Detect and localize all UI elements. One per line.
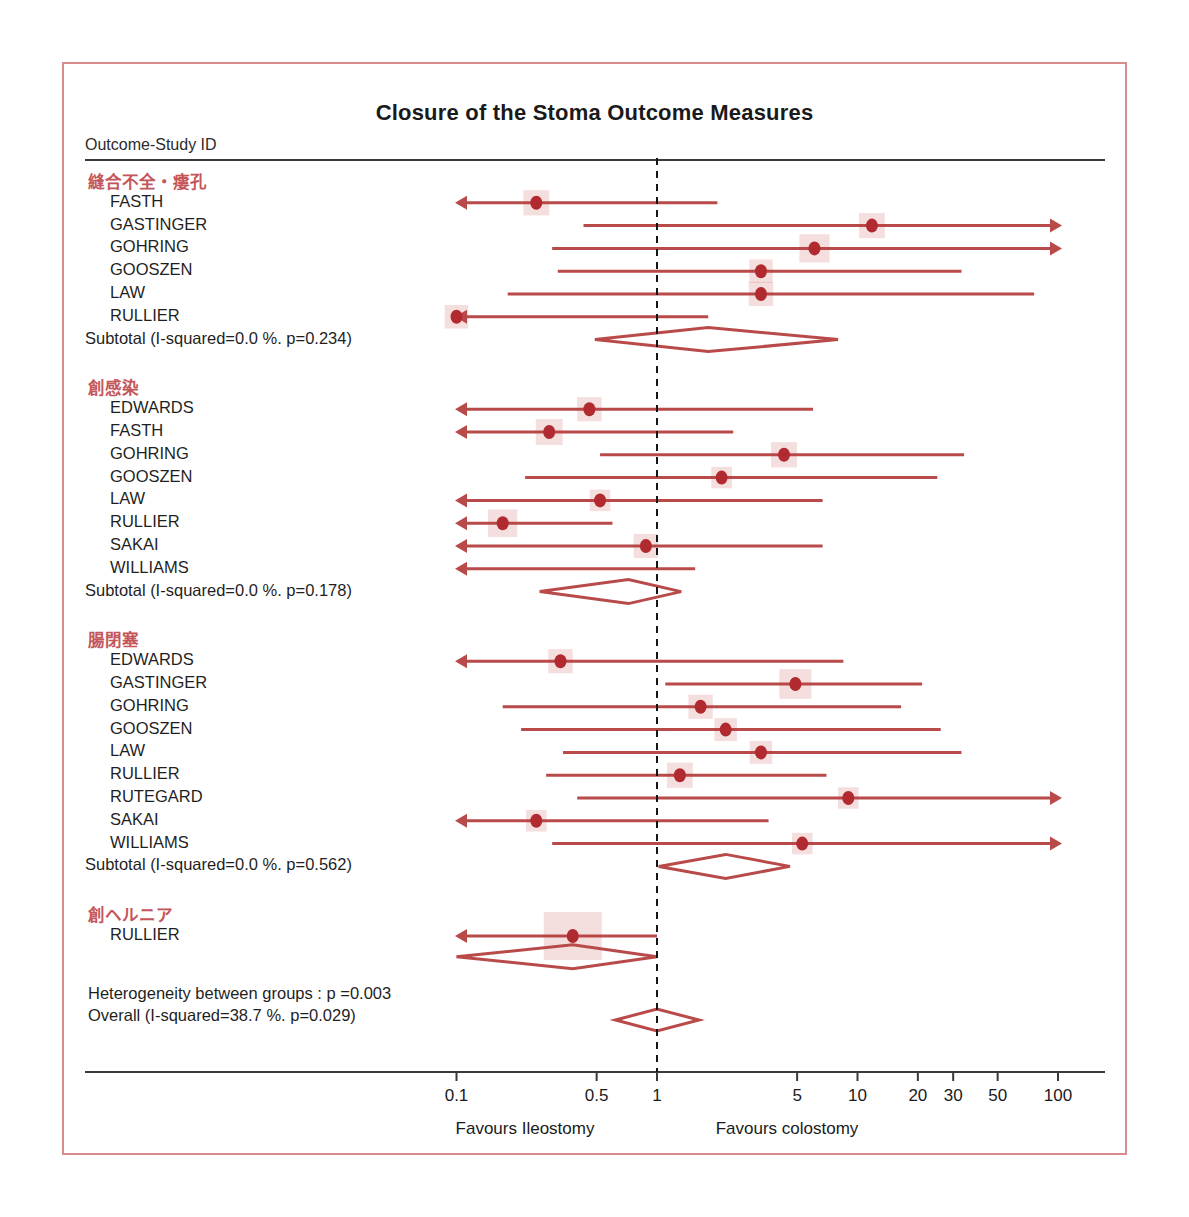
point-estimate-marker — [530, 814, 542, 828]
study-label: WILLIAMS — [110, 558, 189, 577]
point-estimate-marker — [778, 448, 790, 462]
point-estimate-marker — [755, 264, 767, 278]
study-label: GOHRING — [110, 237, 189, 256]
subtotal-group-3 — [659, 854, 790, 878]
point-estimate-marker — [755, 745, 767, 759]
study-row — [665, 669, 922, 699]
favours-left-label: Favours Ileostomy — [456, 1119, 595, 1139]
axis-tick-label: 10 — [848, 1086, 867, 1106]
study-row — [552, 833, 1062, 854]
study-row — [455, 509, 613, 537]
ci-arrow-left-icon — [455, 196, 467, 210]
axis-tick-label: 100 — [1044, 1086, 1072, 1106]
study-row — [455, 419, 733, 445]
study-row — [521, 718, 941, 741]
subtotal-group-1 — [595, 328, 838, 352]
point-estimate-marker — [808, 241, 820, 255]
point-estimate-marker — [640, 539, 652, 553]
study-label: RULLIER — [110, 764, 180, 783]
ci-arrow-right-icon — [1050, 219, 1062, 233]
study-label: FASTH — [110, 192, 163, 211]
axis-tick-label: 1 — [652, 1086, 661, 1106]
forest-plot-page: Closure of the Stoma Outcome Measures Ou… — [0, 0, 1189, 1217]
study-label: GOHRING — [110, 696, 189, 715]
study-row — [455, 397, 813, 421]
group-heading-3: 腸閉塞 — [88, 627, 139, 651]
ci-arrow-left-icon — [455, 562, 467, 576]
study-row — [455, 490, 823, 511]
axis-tick-label: 0.5 — [585, 1086, 609, 1106]
ci-arrow-left-icon — [455, 402, 467, 416]
point-estimate-marker — [842, 791, 854, 805]
study-row — [525, 467, 937, 488]
study-label: RUTEGARD — [110, 787, 203, 806]
ci-arrow-right-icon — [1050, 791, 1062, 805]
study-row — [455, 810, 769, 831]
ci-arrow-left-icon — [455, 929, 467, 943]
summary-diamond — [659, 854, 790, 878]
study-row — [563, 741, 961, 764]
study-label: RULLIER — [110, 306, 180, 325]
point-estimate-marker — [866, 219, 878, 233]
ci-arrow-left-icon — [455, 814, 467, 828]
study-row — [558, 259, 962, 283]
study-label: RULLIER — [110, 925, 180, 944]
study-label: RULLIER — [110, 512, 180, 531]
study-label: LAW — [110, 283, 145, 302]
ci-arrow-left-icon — [455, 516, 467, 530]
study-label: GOOSZEN — [110, 467, 193, 486]
point-estimate-marker — [543, 425, 555, 439]
point-estimate-marker — [530, 196, 542, 210]
point-estimate-marker — [755, 287, 767, 301]
group-heading-4: 創ヘルニア — [88, 902, 173, 926]
point-estimate-marker — [674, 768, 686, 782]
study-label: SAKAI — [110, 535, 159, 554]
point-estimate-marker — [497, 516, 509, 530]
point-estimate-marker — [716, 471, 728, 485]
study-label: LAW — [110, 741, 145, 760]
point-estimate-marker — [554, 654, 566, 668]
point-estimate-marker — [796, 837, 808, 851]
overall-label: Overall (I-squared=38.7 %. p=0.029) — [88, 1006, 356, 1025]
group-heading-2: 創感染 — [88, 375, 139, 399]
study-row — [577, 787, 1062, 808]
study-label: EDWARDS — [110, 650, 194, 669]
summary-diamond — [540, 580, 681, 604]
point-estimate-marker — [594, 493, 606, 507]
study-row — [455, 562, 695, 576]
point-estimate-marker — [720, 723, 732, 737]
ci-arrow-right-icon — [1050, 241, 1062, 255]
ci-arrow-left-icon — [455, 425, 467, 439]
study-row — [508, 282, 1034, 306]
axis-tick-label: 20 — [908, 1086, 927, 1106]
study-label: SAKAI — [110, 810, 159, 829]
study-row — [552, 234, 1062, 262]
study-row — [503, 695, 901, 719]
ci-arrow-right-icon — [1050, 837, 1062, 851]
point-estimate-marker — [567, 929, 579, 943]
favours-right-label: Favours colostomy — [716, 1119, 859, 1139]
subtotal-group-2 — [540, 580, 681, 604]
axis-tick-label: 5 — [792, 1086, 801, 1106]
study-label: GOOSZEN — [110, 260, 193, 279]
axis-tick-label: 50 — [988, 1086, 1007, 1106]
point-estimate-marker — [583, 402, 595, 416]
subtotal-label-3: Subtotal (I-squared=0.0 %. p=0.562) — [85, 855, 352, 874]
heterogeneity-note: Heterogeneity between groups : p =0.003 — [88, 984, 391, 1003]
axis-tick-label: 0.1 — [445, 1086, 469, 1106]
point-estimate-marker — [789, 677, 801, 691]
point-estimate-marker — [695, 700, 707, 714]
point-estimate-marker — [451, 310, 463, 324]
study-label: WILLIAMS — [110, 833, 189, 852]
group-heading-1: 縫合不全・瘻孔 — [88, 169, 207, 193]
study-row — [445, 305, 708, 329]
summary-diamond — [595, 328, 838, 352]
study-label: GASTINGER — [110, 673, 207, 692]
ci-arrow-left-icon — [455, 493, 467, 507]
study-label: GOOSZEN — [110, 719, 193, 738]
study-label: GOHRING — [110, 444, 189, 463]
study-label: GASTINGER — [110, 215, 207, 234]
study-row — [546, 763, 826, 788]
study-label: LAW — [110, 489, 145, 508]
study-label: FASTH — [110, 421, 163, 440]
